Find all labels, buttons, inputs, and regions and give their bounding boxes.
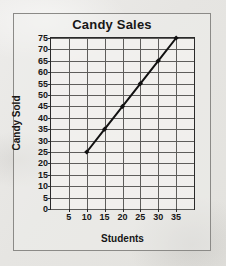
- y-tick-label: 30: [38, 136, 48, 145]
- y-tick-label: 55: [38, 79, 48, 88]
- y-tick-label: 50: [38, 91, 48, 100]
- y-tick-label: 0: [43, 205, 48, 214]
- candy-sales-line-chart: Candy Sales Candy Sold Students 05101520…: [14, 14, 210, 250]
- y-tick-label: 35: [38, 125, 48, 134]
- plot-area: 051015202530354045505560657075 510152025…: [50, 37, 195, 210]
- x-tick-label: 10: [82, 213, 92, 222]
- y-tick-label: 45: [38, 102, 48, 111]
- figure-frame: Candy Sales Candy Sold Students 05101520…: [13, 13, 211, 251]
- x-tick-label: 35: [171, 213, 181, 222]
- x-tick-label: 15: [100, 213, 110, 222]
- y-tick-label: 60: [38, 68, 48, 77]
- y-tick-label: 25: [38, 148, 48, 157]
- y-tick-mark: [48, 209, 51, 210]
- y-tick-label: 15: [38, 170, 48, 179]
- chart-title: Candy Sales: [14, 17, 210, 32]
- y-tick-label: 70: [38, 45, 48, 54]
- x-axis-title: Students: [50, 233, 195, 244]
- series-line: [87, 38, 176, 152]
- y-tick-label: 20: [38, 159, 48, 168]
- y-axis-title: Candy Sold: [11, 95, 22, 150]
- data-series-line: [51, 38, 194, 209]
- y-tick-label: 40: [38, 113, 48, 122]
- y-tick-label: 65: [38, 56, 48, 65]
- y-tick-label: 75: [38, 34, 48, 43]
- x-tick-label: 20: [117, 213, 127, 222]
- x-tick-label: 5: [66, 213, 71, 222]
- y-tick-label: 10: [38, 182, 48, 191]
- x-tick-label: 25: [135, 213, 145, 222]
- x-tick-label: 30: [153, 213, 163, 222]
- y-tick-label: 5: [43, 193, 48, 202]
